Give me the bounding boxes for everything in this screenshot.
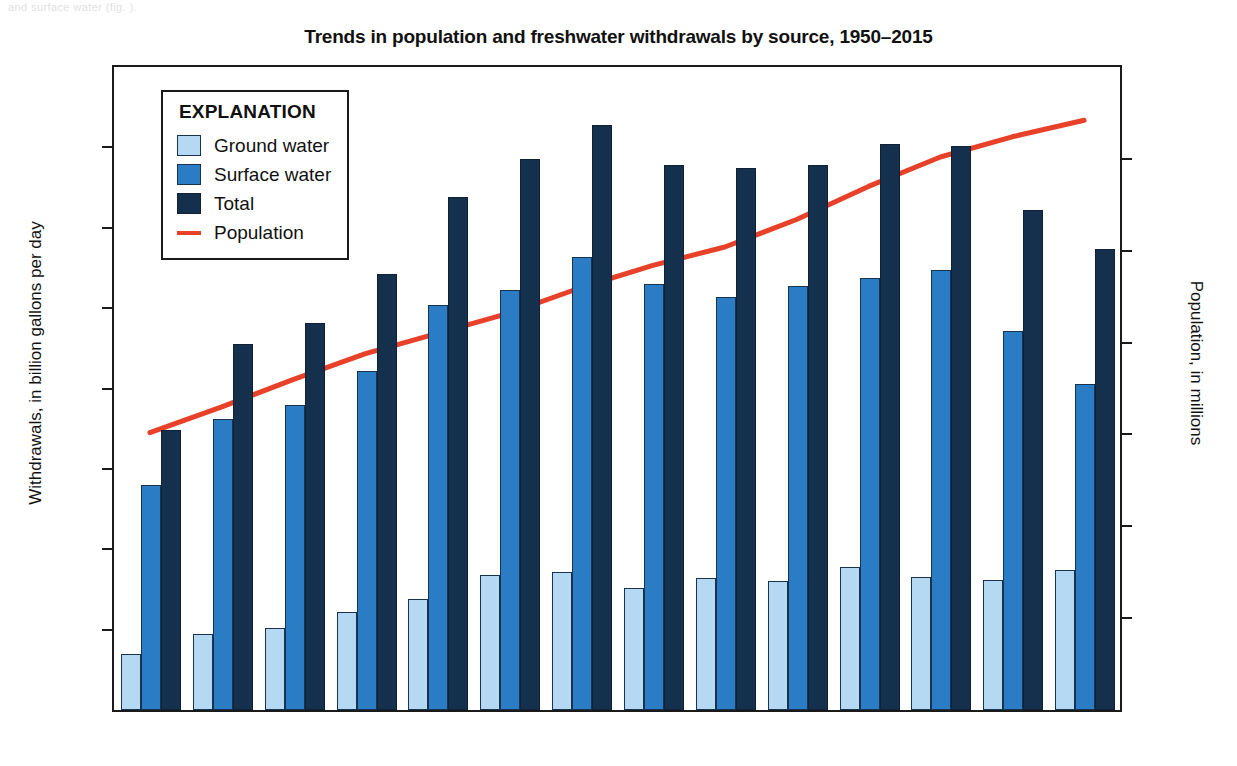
bar-surface-water-1960 — [285, 405, 305, 710]
legend-item-label: Total — [214, 193, 254, 215]
bar-ground-water-1995 — [768, 581, 788, 710]
bar-ground-water-1975 — [480, 575, 500, 710]
bar-ground-water-1985 — [624, 588, 644, 710]
bar-surface-water-2015 — [1075, 384, 1095, 710]
bar-ground-water-1950 — [121, 654, 141, 710]
bar-surface-water-2005 — [931, 270, 951, 710]
y-axis-left-tick — [102, 468, 114, 470]
legend-item-label: Surface water — [214, 164, 331, 186]
bar-total-2015 — [1095, 249, 1115, 710]
bar-ground-water-1960 — [265, 628, 285, 710]
chart-title: Trends in population and freshwater with… — [0, 26, 1237, 48]
chart-figure: and surface water (fig. ). Trends in pop… — [0, 0, 1237, 766]
bar-ground-water-1970 — [408, 599, 428, 710]
bar-total-1950 — [161, 430, 181, 710]
legend-item-surface: Surface water — [177, 160, 331, 189]
bar-total-1980 — [592, 125, 612, 710]
bar-total-1960 — [305, 323, 325, 710]
y-axis-right-tick — [1120, 158, 1132, 160]
y-axis-left-tick — [102, 227, 114, 229]
bar-ground-water-2005 — [911, 577, 931, 710]
bar-ground-water-1990 — [696, 578, 716, 710]
y-axis-right-tick — [1120, 617, 1132, 619]
legend-item-label: Ground water — [214, 135, 329, 157]
bar-surface-water-1950 — [141, 485, 161, 710]
bar-total-1990 — [736, 168, 756, 710]
y-axis-right-tick — [1120, 342, 1132, 344]
bar-total-1985 — [664, 165, 684, 710]
population-line-swatch-icon — [177, 222, 201, 243]
bar-total-1995 — [808, 165, 828, 710]
bar-total-2000 — [880, 144, 900, 710]
y-axis-left-tick — [102, 307, 114, 309]
bar-ground-water-2015 — [1055, 570, 1075, 710]
bar-total-1970 — [448, 197, 468, 710]
y-axis-left-tick — [102, 388, 114, 390]
legend-item-ground: Ground water — [177, 131, 331, 160]
total-swatch-icon — [177, 193, 201, 214]
legend-items: Ground waterSurface waterTotalPopulation — [177, 131, 331, 247]
bar-ground-water-1980 — [552, 572, 572, 710]
bar-surface-water-1970 — [428, 305, 448, 710]
bar-surface-water-1955 — [213, 419, 233, 710]
page-text-fragment: and surface water (fig. ). — [8, 1, 328, 15]
y-axis-right-tick — [1120, 250, 1132, 252]
bar-surface-water-1980 — [572, 257, 592, 710]
legend-item-total: Total — [177, 189, 331, 218]
legend-item-line: Population — [177, 218, 331, 247]
bar-ground-water-2010 — [983, 580, 1003, 710]
y-axis-left-tick — [102, 629, 114, 631]
plot-area: 0501001502002503003504000501001502002503… — [112, 65, 1122, 712]
legend-box: EXPLANATION Ground waterSurface waterTot… — [161, 90, 349, 260]
y-axis-right-tick — [1120, 525, 1132, 527]
bar-surface-water-1965 — [357, 371, 377, 710]
bar-surface-water-2000 — [860, 278, 880, 710]
y-axis-right-title: Population, in millions — [1186, 63, 1206, 663]
bar-total-2005 — [951, 146, 971, 710]
bar-total-1975 — [520, 159, 540, 710]
bar-surface-water-1985 — [644, 284, 664, 710]
legend-title: EXPLANATION — [179, 101, 331, 123]
ground-swatch-icon — [177, 135, 201, 156]
bar-total-2010 — [1023, 210, 1043, 710]
bar-surface-water-1975 — [500, 290, 520, 710]
y-axis-left-title: Withdrawals, in billion gallons per day — [26, 63, 46, 663]
bar-ground-water-2000 — [840, 567, 860, 710]
surface-swatch-icon — [177, 164, 201, 185]
bar-total-1955 — [233, 344, 253, 711]
legend-item-label: Population — [214, 222, 304, 244]
bar-surface-water-1990 — [716, 297, 736, 710]
y-axis-left-tick — [102, 548, 114, 550]
bar-ground-water-1955 — [193, 634, 213, 710]
bar-total-1965 — [377, 274, 397, 710]
y-axis-right-tick — [1120, 433, 1132, 435]
bar-surface-water-2010 — [1003, 331, 1023, 710]
bar-ground-water-1965 — [337, 612, 357, 710]
bar-surface-water-1995 — [788, 286, 808, 710]
y-axis-left-tick — [102, 146, 114, 148]
